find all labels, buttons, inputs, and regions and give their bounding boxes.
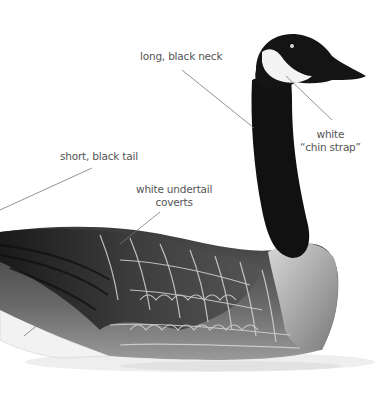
label-tail: short, black tail <box>60 150 138 163</box>
leader-line-neck <box>182 70 254 128</box>
goose-neck <box>251 66 309 258</box>
label-undertail: white undertail coverts <box>136 183 212 209</box>
label-chin-line1: white <box>300 128 361 141</box>
goose-diagram: long, black neck white “chin strap” shor… <box>0 0 384 398</box>
label-chin-line2: “chin strap” <box>300 141 361 154</box>
leader-line-tail <box>0 168 92 210</box>
label-undertail-line1: white undertail <box>136 183 212 196</box>
label-neck-text: long, black neck <box>140 50 222 62</box>
label-undertail-line2: coverts <box>136 196 212 209</box>
label-tail-text: short, black tail <box>60 150 138 162</box>
label-neck: long, black neck <box>140 50 222 63</box>
goose-eye <box>289 43 294 48</box>
label-chin-strap: white “chin strap” <box>300 128 361 154</box>
